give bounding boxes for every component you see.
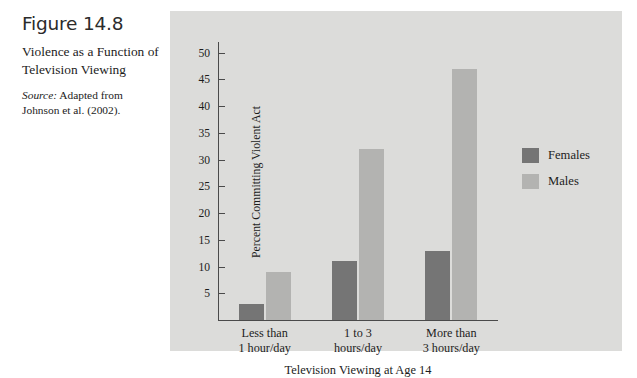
y-axis-tick-label: 20: [198, 207, 210, 220]
y-axis-tick-label: 15: [198, 233, 210, 246]
y-axis-tick-mark: [219, 133, 225, 134]
y-axis-tick-mark: [219, 186, 225, 187]
y-axis-tick-mark: [219, 293, 225, 294]
y-axis-tick: 35: [218, 133, 225, 134]
legend-item-males: Males: [522, 168, 590, 194]
y-axis-line: [218, 42, 219, 321]
x-axis-line: [218, 320, 498, 321]
legend-label-females: Females: [548, 148, 590, 163]
y-axis-tick: 45: [218, 79, 225, 80]
y-axis-tick-mark: [219, 106, 225, 107]
y-axis-title: Percent Committing Violent Act: [249, 105, 264, 257]
x-axis-label-line: More than: [391, 326, 511, 341]
legend-swatch-males: [522, 174, 539, 189]
figure-title: Violence as a Function of Television Vie…: [22, 43, 162, 79]
y-axis-tick-label: 30: [198, 153, 210, 166]
bar-males-0: [266, 272, 291, 320]
bar-females-1: [332, 261, 357, 320]
legend-label-males: Males: [548, 174, 579, 189]
y-axis-tick-mark: [219, 53, 225, 54]
y-axis-tick: 50: [218, 53, 225, 54]
x-axis-label-line: 3 hours/day: [391, 341, 511, 356]
y-axis-tick: 5: [218, 293, 225, 294]
y-axis-tick-label: 25: [198, 180, 210, 193]
bar-males-1: [359, 149, 384, 320]
chart-panel: Percent Committing Violent Act 510152025…: [170, 11, 622, 351]
bar-females-2: [425, 251, 450, 321]
bar-males-2: [452, 69, 477, 320]
y-axis-tick-label: 35: [198, 126, 210, 139]
y-axis-tick: 25: [218, 186, 225, 187]
y-axis-tick: 15: [218, 240, 225, 241]
bar-females-0: [239, 304, 264, 320]
y-axis-tick: 20: [218, 213, 225, 214]
y-axis-tick-label: 10: [198, 260, 210, 273]
figure-source-label: Source:: [22, 89, 57, 101]
y-axis-tick-mark: [219, 267, 225, 268]
figure-number: Figure 14.8: [22, 14, 162, 34]
y-axis-tick-mark: [219, 160, 225, 161]
y-axis-tick-mark: [219, 240, 225, 241]
y-axis-tick: 10: [218, 267, 225, 268]
x-axis-title: Television Viewing at Age 14: [218, 363, 498, 378]
legend-item-females: Females: [522, 142, 590, 168]
plot-area: Percent Committing Violent Act 510152025…: [218, 42, 498, 321]
x-axis-label-2: More than3 hours/day: [391, 326, 511, 357]
chart-legend: FemalesMales: [522, 142, 590, 194]
y-axis-tick-label: 5: [204, 287, 210, 300]
y-axis-tick-mark: [219, 213, 225, 214]
figure-source: Source: Adapted from Johnson et al. (200…: [22, 88, 162, 118]
legend-swatch-females: [522, 148, 539, 163]
y-axis-tick: 30: [218, 160, 225, 161]
y-axis-tick-label: 40: [198, 100, 210, 113]
y-axis-tick-mark: [219, 79, 225, 80]
y-axis-tick: 40: [218, 106, 225, 107]
y-axis-tick-label: 50: [198, 46, 210, 59]
y-axis-tick-label: 45: [198, 73, 210, 86]
figure-caption: Figure 14.8 Violence as a Function of Te…: [22, 14, 162, 118]
